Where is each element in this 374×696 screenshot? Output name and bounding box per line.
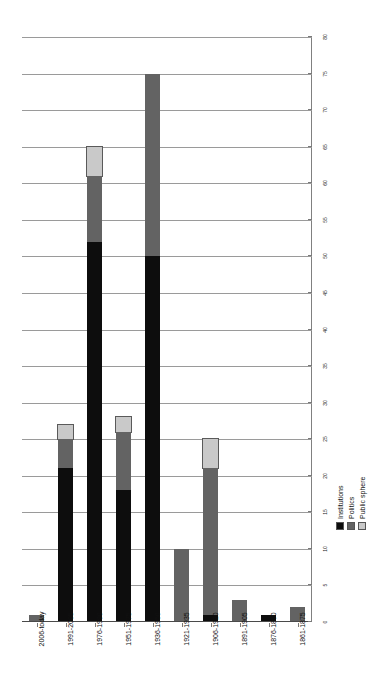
value-axis-tick-label: 65 [312, 142, 338, 152]
bar-slot [51, 37, 80, 622]
value-axis-tick-mark [308, 402, 312, 403]
bar-slot [109, 37, 138, 622]
category-axis-slot: 1991-2005 [51, 623, 80, 693]
value-axis-tick-label: 75 [312, 69, 338, 79]
value-axis-tick-mark [308, 475, 312, 476]
value-axis-tick-mark [308, 73, 312, 74]
bar-segment-institutions [58, 468, 73, 622]
legend-label: Institutions [337, 486, 344, 519]
stacked-bar[interactable] [174, 549, 189, 622]
bar-slot [80, 37, 109, 622]
category-axis-label: 2006-today [37, 611, 46, 646]
stacked-bar[interactable] [203, 439, 218, 622]
category-axis-slot: 1951-1975 [109, 623, 138, 693]
value-axis-tick-mark [308, 548, 312, 549]
value-axis-tick-mark [308, 36, 312, 37]
value-axis-tick-label: 5 [312, 580, 338, 590]
value-axis-tick-label: 20 [312, 471, 338, 481]
bar-segment-politics [174, 549, 189, 622]
stacked-bar[interactable] [145, 74, 160, 622]
legend-label: Politics [348, 497, 355, 519]
bar-slot [196, 37, 225, 622]
value-axis-tick-label: 30 [312, 398, 338, 408]
category-axis-label: 1906-1920 [211, 612, 220, 645]
value-axis-tick-label: 10 [312, 544, 338, 554]
category-axis-slot: 1891-1905 [225, 623, 254, 693]
value-axis-tick-label: 50 [312, 251, 338, 261]
bar-segment-politics [116, 432, 131, 491]
category-axis-label: 1861-1875 [298, 612, 307, 645]
value-axis-tick-mark [308, 292, 312, 293]
legend-item[interactable]: Institutions [336, 486, 344, 530]
bar-segment-politics [203, 468, 218, 614]
category-axis-slot: 1936-1950 [138, 623, 167, 693]
legend-swatch-institutions [336, 522, 344, 530]
bar-segment-public-sphere [116, 417, 131, 432]
bar-slot [283, 37, 312, 622]
bar-segment-institutions [87, 242, 102, 622]
bar-series-group [22, 37, 312, 622]
value-axis-tick-mark [308, 584, 312, 585]
bar-segment-politics [58, 439, 73, 468]
category-axis-label: 1951-1975 [124, 612, 133, 645]
category-axis-label: 1936-1950 [153, 612, 162, 645]
bar-slot [254, 37, 283, 622]
value-axis-tick-label: 45 [312, 288, 338, 298]
legend-swatch-public-sphere [358, 522, 366, 530]
category-axis-slot: 1906-1920 [196, 623, 225, 693]
value-axis-tick-mark [308, 182, 312, 183]
value-axis-tick-label: 55 [312, 215, 338, 225]
value-axis-tick-mark [308, 329, 312, 330]
bar-segment-public-sphere [87, 147, 102, 176]
category-axis-slot: 1876-1890 [254, 623, 283, 693]
category-axis-slot: 1976-1990 [80, 623, 109, 693]
value-axis: 05101520253035404550556065707580 [312, 37, 338, 622]
category-axis-label: 1976-1990 [95, 612, 104, 645]
category-axis-label: 1876-1890 [269, 612, 278, 645]
stacked-bar[interactable] [87, 147, 102, 622]
legend-item[interactable]: Public sphere [358, 477, 366, 530]
value-axis-tick-label: 60 [312, 178, 338, 188]
legend-item[interactable]: Politics [347, 497, 355, 530]
value-axis-tick-mark [308, 255, 312, 256]
value-axis-tick-mark [308, 621, 312, 622]
stacked-bar-chart: 05101520253035404550556065707580 2006-to… [0, 0, 374, 696]
bar-segment-institutions [145, 256, 160, 622]
bar-slot [22, 37, 51, 622]
value-axis-tick-mark [308, 438, 312, 439]
value-axis-tick-label: 25 [312, 434, 338, 444]
bar-segment-politics [145, 74, 160, 257]
value-axis-tick-label: 0 [312, 617, 338, 627]
chart-legend: InstitutionsPoliticsPublic sphere [336, 330, 370, 530]
category-axis: 2006-today1991-20051976-19901951-1975193… [22, 623, 312, 693]
bar-segment-institutions [116, 490, 131, 622]
value-axis-tick-label: 15 [312, 507, 338, 517]
category-axis-slot: 2006-today [22, 623, 51, 693]
category-axis-label: 1891-1905 [240, 612, 249, 645]
category-axis-slot: 1921-1935 [167, 623, 196, 693]
legend-label: Public sphere [359, 477, 366, 519]
value-axis-tick-label: 80 [312, 32, 338, 42]
value-axis-tick-mark [308, 109, 312, 110]
bar-segment-politics [87, 176, 102, 242]
legend-swatch-politics [347, 522, 355, 530]
bar-slot [225, 37, 254, 622]
category-axis-slot: 1861-1875 [283, 623, 312, 693]
category-axis-label: 1921-1935 [182, 612, 191, 645]
value-axis-tick-label: 70 [312, 105, 338, 115]
bar-segment-public-sphere [58, 425, 73, 440]
value-axis-tick-mark [308, 219, 312, 220]
stacked-bar[interactable] [116, 417, 131, 622]
bar-slot [138, 37, 167, 622]
value-axis-tick-mark [308, 365, 312, 366]
bar-segment-public-sphere [203, 439, 218, 468]
value-axis-tick-label: 35 [312, 361, 338, 371]
stacked-bar[interactable] [58, 425, 73, 622]
value-axis-tick-label: 40 [312, 325, 338, 335]
value-axis-tick-mark [308, 146, 312, 147]
bar-slot [167, 37, 196, 622]
category-axis-label: 1991-2005 [66, 612, 75, 645]
value-axis-tick-mark [308, 511, 312, 512]
plot-area [22, 37, 312, 622]
